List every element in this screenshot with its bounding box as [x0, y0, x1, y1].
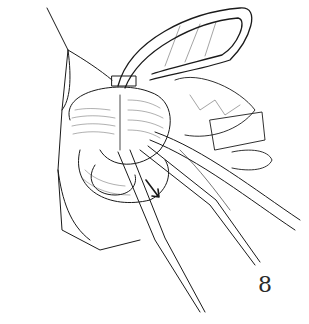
surgical-illustration: 8 — [0, 0, 309, 324]
wound-edge — [47, 8, 140, 250]
retraction-band — [118, 8, 252, 88]
clip — [112, 76, 136, 86]
bowel-loops — [69, 87, 170, 202]
figure-number: 8 — [258, 272, 272, 297]
forceps — [118, 132, 300, 312]
